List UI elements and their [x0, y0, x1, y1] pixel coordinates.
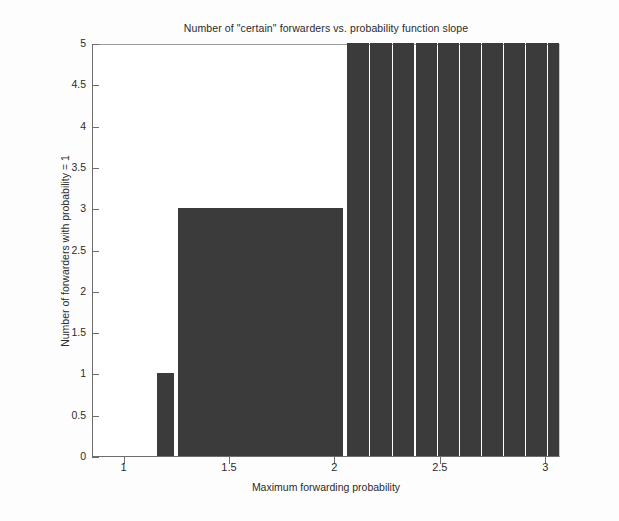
bar: [157, 373, 174, 456]
bar: [221, 208, 242, 456]
bar: [526, 43, 547, 456]
y-axis-tick: [92, 374, 99, 375]
y-axis-tick: [92, 168, 99, 169]
bar: [548, 43, 559, 456]
bar: [284, 208, 305, 456]
x-axis-tick-label: 3: [525, 461, 565, 473]
y-axis-tick: [92, 127, 99, 128]
bar: [263, 208, 284, 456]
y-axis-label: Number of forwarders with probability = …: [59, 61, 71, 441]
x-axis-tick-label: 1: [104, 461, 144, 473]
bar: [460, 43, 481, 456]
bar: [482, 43, 503, 456]
y-axis-tick: [92, 209, 99, 210]
bar: [347, 43, 369, 456]
y-axis-tick: [92, 85, 99, 86]
y-axis-tick: [92, 251, 99, 252]
bar: [370, 43, 392, 456]
x-axis-tick-label: 2.5: [420, 461, 460, 473]
bar: [416, 43, 437, 456]
bar: [504, 43, 525, 456]
bar: [199, 208, 220, 456]
y-axis-tick-label: 5: [40, 37, 86, 49]
y-axis-tick: [92, 416, 99, 417]
bar: [178, 208, 199, 456]
y-axis-tick: [92, 44, 99, 45]
y-axis-tick: [92, 333, 99, 334]
x-axis-label: Maximum forwarding probability: [92, 481, 560, 493]
figure-canvas: Number of "certain" forwarders vs. proba…: [0, 0, 619, 521]
x-axis-tick-label: 1.5: [209, 461, 249, 473]
y-axis-tick: [92, 457, 99, 458]
bar: [326, 208, 343, 456]
bar-series: [93, 45, 559, 456]
plot-area: [92, 44, 560, 457]
x-axis-tick-label: 2: [314, 461, 354, 473]
y-axis-tick: [92, 292, 99, 293]
bar: [438, 43, 459, 456]
bar: [242, 208, 263, 456]
bar: [305, 208, 326, 456]
y-axis-tick-label: 0: [40, 450, 86, 462]
chart-title: Number of "certain" forwarders vs. proba…: [92, 22, 560, 34]
bar: [393, 43, 414, 456]
